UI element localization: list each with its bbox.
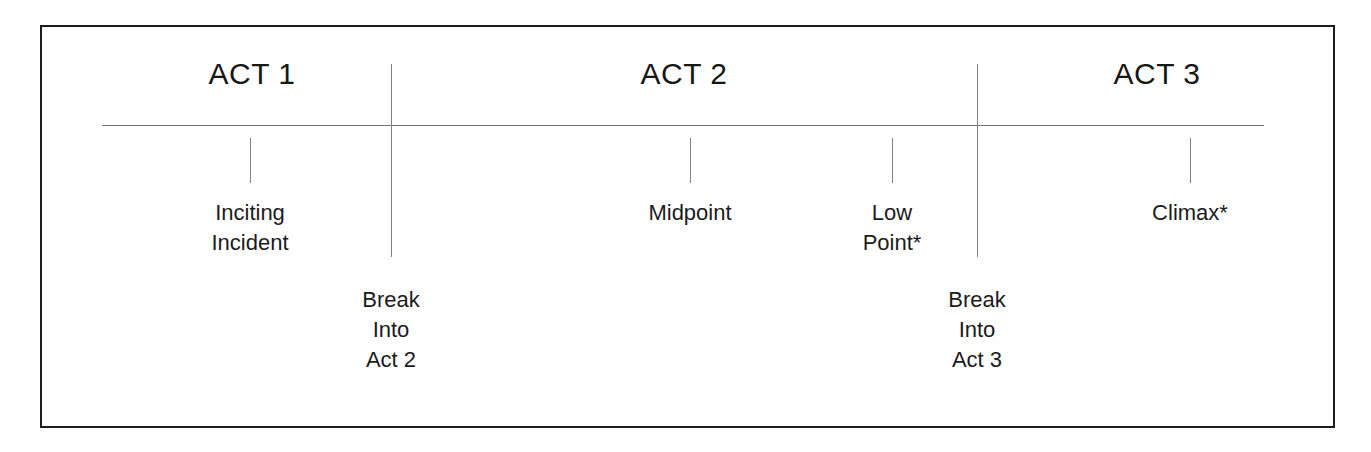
beat-tick-low-point	[892, 138, 893, 183]
act-divider-1	[391, 64, 392, 257]
beat-tick-midpoint	[690, 138, 691, 183]
beat-label-break-into-act-2: Break Into Act 2	[362, 285, 419, 375]
beat-tick-climax	[1190, 138, 1191, 183]
beat-line: Inciting	[211, 198, 288, 228]
act-heading-act-1: ACT 1	[209, 56, 296, 92]
beat-line: Act 3	[948, 345, 1005, 375]
beat-label-climax: Climax*	[1152, 198, 1228, 228]
beat-line: Into	[362, 315, 419, 345]
beat-line: Climax*	[1152, 198, 1228, 228]
act-heading-act-2: ACT 2	[641, 56, 728, 92]
act-divider-2	[977, 64, 978, 257]
beat-line: Incident	[211, 228, 288, 258]
act-heading-act-3: ACT 3	[1114, 56, 1201, 92]
beat-line: Into	[948, 315, 1005, 345]
beat-line: Low	[863, 198, 922, 228]
beat-line: Midpoint	[648, 198, 731, 228]
diagram-frame: ACT 1 ACT 2 ACT 3 Inciting Incident Brea…	[40, 25, 1335, 428]
beat-label-low-point: Low Point*	[863, 198, 922, 258]
beat-tick-inciting-incident	[250, 138, 251, 183]
beat-label-break-into-act-3: Break Into Act 3	[948, 285, 1005, 375]
diagram-canvas: ACT 1 ACT 2 ACT 3 Inciting Incident Brea…	[0, 0, 1371, 452]
beat-line: Act 2	[362, 345, 419, 375]
timeline-axis	[102, 125, 1264, 126]
beat-line: Point*	[863, 228, 922, 258]
beat-line: Break	[362, 285, 419, 315]
beat-label-midpoint: Midpoint	[648, 198, 731, 228]
beat-label-inciting-incident: Inciting Incident	[211, 198, 288, 258]
beat-line: Break	[948, 285, 1005, 315]
